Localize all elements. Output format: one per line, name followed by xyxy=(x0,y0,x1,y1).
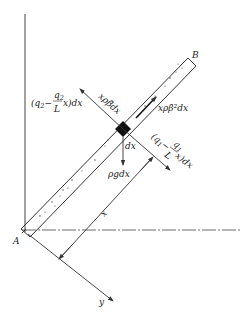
diagram-svg: A B y x (q2− q2 L x)dx xρβ̈dx xρβ̇²dx dx… xyxy=(0,0,245,319)
axis-y-label: y xyxy=(98,297,105,307)
svg-text:L: L xyxy=(53,104,60,114)
svg-text:x)dx: x)dx xyxy=(174,151,195,171)
centrifugal-force-label: xρβ̇²dx xyxy=(158,103,188,113)
svg-text:(q2−: (q2− xyxy=(31,98,52,110)
axis-x-dimension-label: x xyxy=(98,208,109,218)
right-distributed-load-label: (q1− q1 L x)dx xyxy=(145,125,200,175)
svg-text:L: L xyxy=(162,149,174,161)
diagram-canvas: A B y x (q2− q2 L x)dx xρβ̈dx xρβ̇²dx dx… xyxy=(0,0,245,319)
dimension-arrow-start xyxy=(59,245,72,259)
point-b-label: B xyxy=(191,50,199,60)
inclined-bar xyxy=(21,58,196,237)
dimension-line-x xyxy=(60,158,152,258)
point-a-label: A xyxy=(12,236,20,246)
tangential-inertia-label: xρβ̈dx xyxy=(97,91,123,116)
dimension-arrow-end xyxy=(140,157,153,171)
left-distributed-load-label: (q2− q2 L x)dx xyxy=(31,90,82,114)
svg-text:x)dx: x)dx xyxy=(63,98,82,108)
element-dx-label: dx xyxy=(125,141,136,151)
y-axis xyxy=(28,234,113,301)
gravity-force-label: ρgdx xyxy=(107,169,130,179)
